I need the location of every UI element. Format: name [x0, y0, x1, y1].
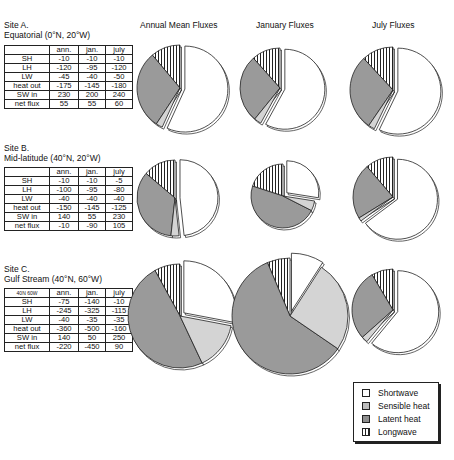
legend-item-latent-heat: Latent heat [362, 414, 421, 424]
latent-heat-swatch-icon [362, 415, 370, 423]
sensible-heat-swatch-icon [362, 402, 370, 410]
legend-item-longwave: Longwave [362, 427, 417, 437]
shortwave-swatch-icon [362, 389, 370, 397]
longwave-swatch-icon [362, 428, 370, 436]
legend-item-shortwave: Shortwave [362, 388, 418, 398]
chart-legend: Shortwave Sensible heat Latent heat Long… [353, 382, 439, 442]
legend-item-sensible-heat: Sensible heat [362, 401, 430, 411]
